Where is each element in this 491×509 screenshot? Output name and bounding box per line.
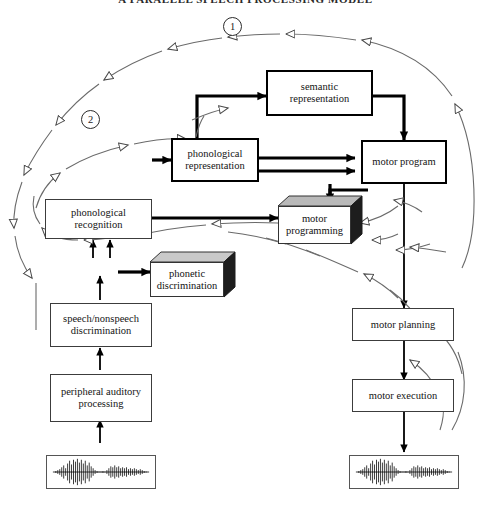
node-phonetic-discrimination-label: phonetic discrimination (151, 268, 223, 292)
node-motor-program[interactable]: motor program (361, 140, 447, 184)
node-speech-nonspeech-discrimination[interactable]: speech/nonspeech discrimination (50, 303, 152, 347)
output-waveform-panel (349, 455, 459, 489)
node-motor-execution-label: motor execution (369, 390, 438, 402)
node-motor-programming-face: motor programming (278, 206, 351, 244)
node-phonological-recognition[interactable]: phonological recognition (45, 199, 152, 239)
output-waveform-icon (350, 456, 458, 488)
node-motor-execution[interactable]: motor execution (352, 379, 454, 412)
node-peripheral-auditory-processing[interactable]: peripheral auditory processing (50, 374, 152, 422)
node-peripheral-auditory-processing-label: peripheral auditory processing (54, 386, 148, 410)
node-motor-programming[interactable]: motor programming (278, 196, 362, 244)
diagram-connectors (0, 0, 491, 509)
stage-number-2: 2 (81, 110, 100, 129)
node-phonological-recognition-label: phonological recognition (49, 207, 148, 231)
node-phonological-representation-label: phonological representation (176, 148, 254, 172)
node-semantic-representation[interactable]: semantic representation (266, 70, 373, 116)
input-waveform-panel (46, 455, 156, 489)
node-motor-planning-label: motor planning (371, 319, 435, 331)
node-phonetic-discrimination[interactable]: phonetic discrimination (150, 252, 235, 297)
node-motor-programming-label: motor programming (279, 213, 350, 237)
node-speech-nonspeech-discrimination-label: speech/nonspeech discrimination (54, 313, 148, 337)
figure-canvas: A PARALLEL SPEECH PROCESSING MODEL (0, 0, 491, 509)
node-motor-program-label: motor program (372, 156, 435, 168)
stage-number-1: 1 (223, 17, 242, 36)
node-phonological-representation[interactable]: phonological representation (171, 138, 259, 182)
node-semantic-representation-label: semantic representation (271, 81, 368, 105)
node-phonetic-discrimination-face: phonetic discrimination (150, 262, 224, 297)
input-waveform-icon (47, 456, 155, 488)
node-motor-planning[interactable]: motor planning (352, 308, 454, 341)
